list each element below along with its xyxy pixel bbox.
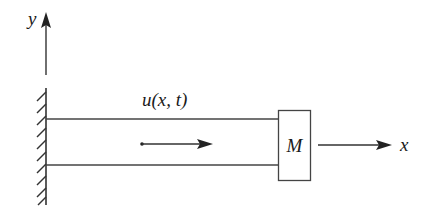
mass-label: M: [286, 135, 304, 156]
x-axis: x: [318, 134, 409, 155]
displacement-arrow: [140, 139, 213, 149]
tip-mass: M: [279, 111, 311, 181]
displacement-label: u(x, t): [142, 89, 187, 111]
diagram-canvas: y u(x, t) M x: [0, 0, 429, 212]
beam: [46, 119, 278, 165]
y-axis-label: y: [26, 8, 37, 29]
x-axis-label: x: [399, 134, 409, 155]
y-axis: y: [26, 8, 51, 75]
fixed-wall-hatch-icon: [37, 88, 46, 205]
